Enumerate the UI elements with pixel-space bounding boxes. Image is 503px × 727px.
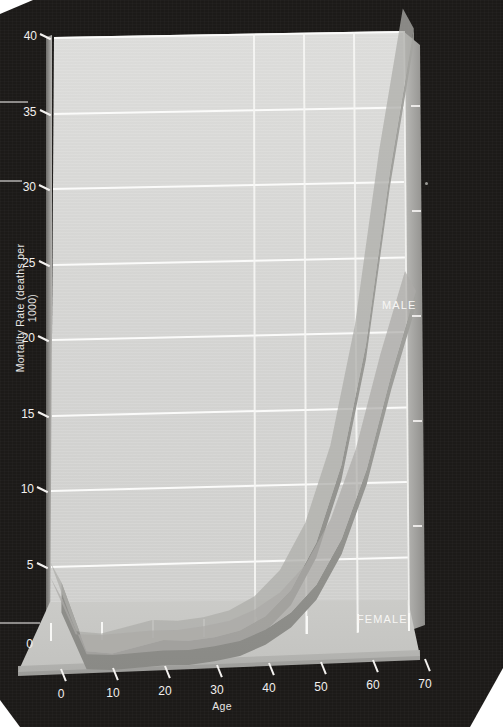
x-axis-tick-label: 50 — [308, 680, 334, 694]
x-axis-tick-label: 40 — [256, 681, 282, 695]
right-wall-tick — [413, 420, 422, 422]
chart-figure: MALE FEMALE 0510152025303540010203040506… — [0, 0, 503, 727]
data-series-layer — [0, 0, 503, 727]
artifact-speck — [425, 182, 428, 185]
right-wall-tick — [412, 315, 421, 317]
right-wall-tick — [413, 525, 422, 527]
x-axis-tick-label: 20 — [152, 684, 178, 698]
outer-tick-mark — [0, 622, 40, 624]
chart-stage: MALE FEMALE — [0, 0, 503, 727]
x-axis-tick-label: 0 — [48, 687, 74, 701]
right-wall-tick — [411, 105, 420, 107]
x-axis-tick-label: 60 — [360, 678, 386, 692]
y-axis-tick-label: 30 — [10, 180, 36, 194]
x-axis-tick-label: 70 — [412, 677, 438, 691]
x-axis-tick-label: 30 — [204, 683, 230, 697]
x-axis-title: Age — [182, 700, 262, 712]
y-axis-tick-label: 15 — [9, 407, 35, 421]
series-label-male: MALE — [382, 299, 416, 311]
y-axis-tick-label: 10 — [8, 482, 34, 496]
outer-tick-mark — [0, 101, 28, 103]
y-axis-tick-label: 0 — [7, 637, 33, 651]
outer-tick-mark — [0, 180, 22, 182]
y-axis-tick-label: 35 — [11, 105, 37, 119]
series-label-female: FEMALE — [357, 613, 408, 625]
series-ribbon-male-highlight — [51, 9, 414, 654]
right-wall-tick — [412, 210, 421, 212]
y-axis-title: Mortality Rate (deaths per 1000) — [14, 238, 38, 378]
x-axis-tick-label: 10 — [100, 686, 126, 700]
y-axis-tick-label: 40 — [11, 29, 37, 43]
y-axis-tick-label: 5 — [8, 558, 34, 572]
